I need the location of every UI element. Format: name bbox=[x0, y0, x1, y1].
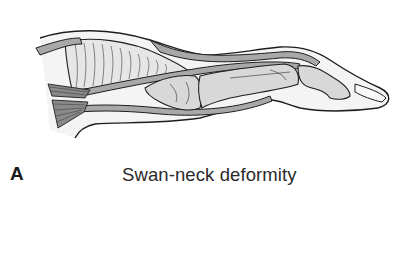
finger-anatomy-illustration bbox=[0, 0, 404, 140]
panel-label: A bbox=[10, 163, 24, 185]
figure-caption: Swan-neck deformity bbox=[122, 164, 297, 186]
